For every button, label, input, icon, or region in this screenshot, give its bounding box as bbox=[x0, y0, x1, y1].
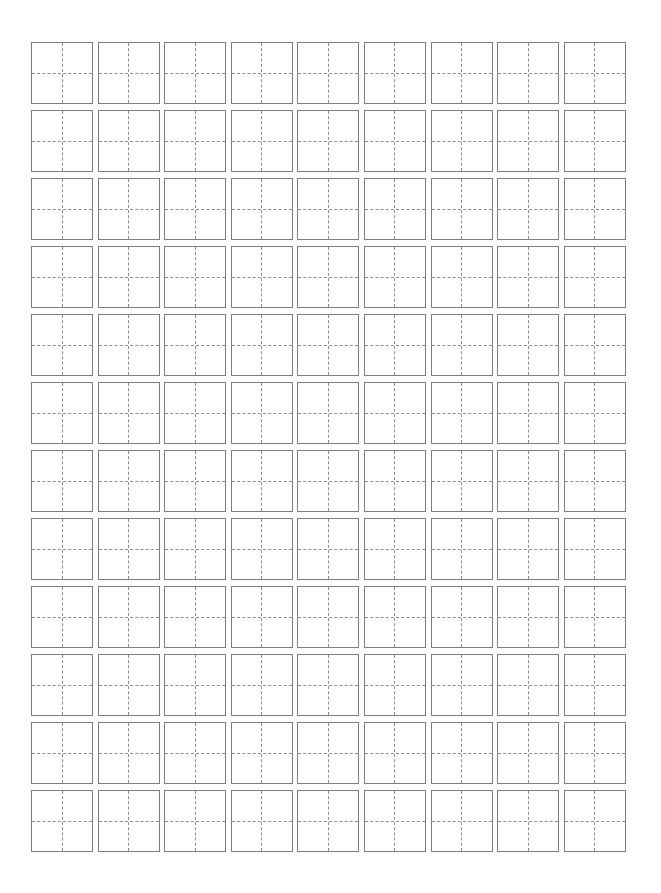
practice-grid-cell[interactable] bbox=[564, 790, 626, 852]
practice-grid-cell[interactable] bbox=[297, 42, 359, 104]
practice-grid-cell[interactable] bbox=[497, 178, 559, 240]
practice-grid-cell[interactable] bbox=[564, 518, 626, 580]
practice-grid-cell[interactable] bbox=[31, 314, 93, 376]
practice-grid-cell[interactable] bbox=[164, 246, 226, 308]
practice-grid-cell[interactable] bbox=[231, 722, 293, 784]
practice-grid-cell[interactable] bbox=[231, 586, 293, 648]
practice-grid-cell[interactable] bbox=[98, 586, 160, 648]
practice-grid-cell[interactable] bbox=[431, 382, 493, 444]
practice-grid-cell[interactable] bbox=[164, 178, 226, 240]
practice-grid-cell[interactable] bbox=[231, 450, 293, 512]
practice-grid-cell[interactable] bbox=[364, 246, 426, 308]
practice-grid-cell[interactable] bbox=[98, 382, 160, 444]
practice-grid-cell[interactable] bbox=[564, 246, 626, 308]
practice-grid-cell[interactable] bbox=[297, 110, 359, 172]
practice-grid-cell[interactable] bbox=[564, 450, 626, 512]
practice-grid-cell[interactable] bbox=[431, 314, 493, 376]
practice-grid-cell[interactable] bbox=[431, 178, 493, 240]
practice-grid-cell[interactable] bbox=[564, 382, 626, 444]
practice-grid-cell[interactable] bbox=[364, 722, 426, 784]
practice-grid-cell[interactable] bbox=[98, 178, 160, 240]
practice-grid-cell[interactable] bbox=[164, 450, 226, 512]
practice-grid-cell[interactable] bbox=[98, 722, 160, 784]
practice-grid-cell[interactable] bbox=[497, 246, 559, 308]
practice-grid-cell[interactable] bbox=[431, 518, 493, 580]
practice-grid-cell[interactable] bbox=[297, 246, 359, 308]
practice-grid-cell[interactable] bbox=[164, 790, 226, 852]
practice-grid-cell[interactable] bbox=[98, 518, 160, 580]
practice-grid-cell[interactable] bbox=[297, 178, 359, 240]
practice-grid-cell[interactable] bbox=[364, 314, 426, 376]
practice-grid-cell[interactable] bbox=[98, 450, 160, 512]
practice-grid-cell[interactable] bbox=[364, 586, 426, 648]
practice-grid-cell[interactable] bbox=[231, 790, 293, 852]
practice-grid-cell[interactable] bbox=[297, 586, 359, 648]
practice-grid-cell[interactable] bbox=[31, 518, 93, 580]
practice-grid-cell[interactable] bbox=[231, 246, 293, 308]
practice-grid-cell[interactable] bbox=[98, 42, 160, 104]
practice-grid-cell[interactable] bbox=[564, 314, 626, 376]
practice-grid-cell[interactable] bbox=[364, 110, 426, 172]
practice-grid-cell[interactable] bbox=[564, 110, 626, 172]
practice-grid-cell[interactable] bbox=[231, 314, 293, 376]
practice-grid-cell[interactable] bbox=[31, 246, 93, 308]
practice-grid-cell[interactable] bbox=[497, 790, 559, 852]
practice-grid-cell[interactable] bbox=[164, 110, 226, 172]
practice-grid-cell[interactable] bbox=[297, 790, 359, 852]
practice-grid-cell[interactable] bbox=[364, 42, 426, 104]
practice-grid-cell[interactable] bbox=[364, 654, 426, 716]
practice-grid-cell[interactable] bbox=[31, 790, 93, 852]
practice-grid-cell[interactable] bbox=[497, 314, 559, 376]
practice-grid-cell[interactable] bbox=[497, 382, 559, 444]
practice-grid-cell[interactable] bbox=[231, 110, 293, 172]
practice-grid-cell[interactable] bbox=[364, 450, 426, 512]
practice-grid-cell[interactable] bbox=[431, 654, 493, 716]
practice-grid-cell[interactable] bbox=[364, 382, 426, 444]
practice-grid-cell[interactable] bbox=[231, 178, 293, 240]
practice-grid-cell[interactable] bbox=[564, 722, 626, 784]
practice-grid-cell[interactable] bbox=[297, 654, 359, 716]
practice-grid-cell[interactable] bbox=[431, 42, 493, 104]
practice-grid-cell[interactable] bbox=[231, 382, 293, 444]
practice-grid-cell[interactable] bbox=[564, 178, 626, 240]
practice-grid-cell[interactable] bbox=[164, 586, 226, 648]
practice-grid-cell[interactable] bbox=[431, 586, 493, 648]
practice-grid-cell[interactable] bbox=[364, 518, 426, 580]
practice-grid-cell[interactable] bbox=[564, 586, 626, 648]
practice-grid-cell[interactable] bbox=[98, 654, 160, 716]
practice-grid-cell[interactable] bbox=[31, 450, 93, 512]
practice-grid-cell[interactable] bbox=[98, 314, 160, 376]
practice-grid-cell[interactable] bbox=[231, 654, 293, 716]
practice-grid-cell[interactable] bbox=[31, 722, 93, 784]
practice-grid-cell[interactable] bbox=[231, 42, 293, 104]
practice-grid-cell[interactable] bbox=[297, 450, 359, 512]
practice-grid-cell[interactable] bbox=[31, 42, 93, 104]
practice-grid-cell[interactable] bbox=[98, 246, 160, 308]
practice-grid-cell[interactable] bbox=[164, 42, 226, 104]
practice-grid-cell[interactable] bbox=[431, 790, 493, 852]
practice-grid-cell[interactable] bbox=[431, 722, 493, 784]
practice-grid-cell[interactable] bbox=[431, 450, 493, 512]
practice-grid-cell[interactable] bbox=[497, 518, 559, 580]
practice-grid-cell[interactable] bbox=[31, 382, 93, 444]
practice-grid-cell[interactable] bbox=[297, 518, 359, 580]
practice-grid-cell[interactable] bbox=[31, 178, 93, 240]
practice-grid-cell[interactable] bbox=[497, 450, 559, 512]
practice-grid-cell[interactable] bbox=[31, 586, 93, 648]
practice-grid-cell[interactable] bbox=[31, 110, 93, 172]
practice-grid-cell[interactable] bbox=[231, 518, 293, 580]
practice-grid-cell[interactable] bbox=[297, 382, 359, 444]
practice-grid-cell[interactable] bbox=[564, 42, 626, 104]
practice-grid-cell[interactable] bbox=[98, 790, 160, 852]
practice-grid-cell[interactable] bbox=[164, 314, 226, 376]
practice-grid-cell[interactable] bbox=[364, 178, 426, 240]
practice-grid-cell[interactable] bbox=[164, 518, 226, 580]
practice-grid-cell[interactable] bbox=[164, 722, 226, 784]
practice-grid-cell[interactable] bbox=[297, 722, 359, 784]
practice-grid-cell[interactable] bbox=[98, 110, 160, 172]
practice-grid-cell[interactable] bbox=[497, 42, 559, 104]
practice-grid-cell[interactable] bbox=[497, 110, 559, 172]
practice-grid-cell[interactable] bbox=[297, 314, 359, 376]
practice-grid-cell[interactable] bbox=[497, 654, 559, 716]
practice-grid-cell[interactable] bbox=[364, 790, 426, 852]
